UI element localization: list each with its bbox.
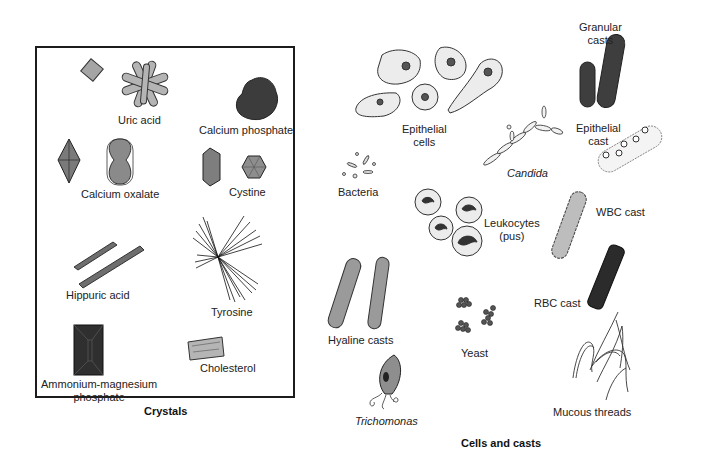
ammonium-magnesium-phosphate-icon <box>74 325 103 375</box>
cystine-label: Cystine <box>229 186 266 199</box>
yeast-label: Yeast <box>461 347 488 360</box>
epithelial-cells-icon <box>356 47 503 117</box>
epithelial-cast-label: Epithelial cast <box>576 122 621 148</box>
trichomonas-icon <box>370 355 401 409</box>
epithelial-cells-label: Epithelial cells <box>402 123 447 149</box>
trichomonas-label: Trichomonas <box>355 415 418 428</box>
cystine-icon <box>203 148 266 186</box>
yeast-icon <box>456 298 496 333</box>
hippuric-acid-icon <box>74 242 144 288</box>
calcium-oxalate-label: Calcium oxalate <box>81 188 159 201</box>
tyrosine-icon <box>193 216 262 302</box>
granular-casts-label: Granular casts <box>579 21 622 47</box>
wbc-cast-label: WBC cast <box>596 206 645 219</box>
hippuric-acid-label: Hippuric acid <box>66 289 130 302</box>
rbc-cast-icon <box>586 243 626 310</box>
ammonium-magnesium-phosphate-label: Ammonium-magnesium phosphate <box>41 378 157 404</box>
wbc-cast-icon <box>550 189 589 260</box>
bacteria-icon <box>343 153 376 179</box>
mucous-threads-icon <box>573 312 630 400</box>
tyrosine-label: Tyrosine <box>211 306 253 319</box>
leukocytes-label: Leukocytes (pus) <box>484 217 540 243</box>
bacteria-label: Bacteria <box>338 186 378 199</box>
mucous-threads-label: Mucous threads <box>553 406 631 419</box>
rbc-cast-label: RBC cast <box>534 297 580 310</box>
uric-acid-icon <box>81 59 169 108</box>
cells-and-casts-caption: Cells and casts <box>461 437 541 449</box>
calcium-oxalate-icon <box>58 139 133 185</box>
uric-acid-label: Uric acid <box>118 114 161 127</box>
calcium-phosphate-label: Calcium phosphate <box>199 124 293 137</box>
candida-icon <box>482 106 563 167</box>
candida-label: Candida <box>507 167 548 180</box>
hyaline-casts-label: Hyaline casts <box>328 334 393 347</box>
hyaline-casts-icon <box>326 257 390 330</box>
cholesterol-icon <box>188 337 224 360</box>
calcium-phosphate-icon <box>236 78 277 120</box>
leukocytes-icon <box>415 189 482 256</box>
cholesterol-label: Cholesterol <box>200 362 256 375</box>
